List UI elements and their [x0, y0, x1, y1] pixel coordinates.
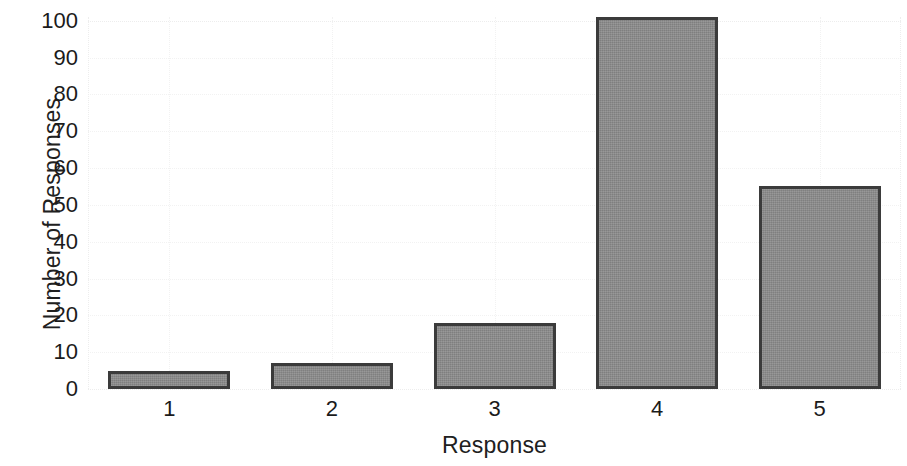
x-tick-label: 2 — [302, 396, 362, 422]
bar — [108, 371, 230, 389]
x-axis-tick-labels: 12345 — [88, 396, 901, 426]
x-tick-label: 5 — [790, 396, 850, 422]
y-tick-label: 40 — [26, 231, 78, 253]
x-tick-label: 3 — [465, 396, 525, 422]
bar — [271, 363, 393, 389]
y-tick-label: 90 — [26, 47, 78, 69]
gridline-vertical — [900, 17, 901, 389]
x-tick-label: 4 — [627, 396, 687, 422]
y-tick-label: 10 — [26, 341, 78, 363]
x-axis-title: Response — [88, 432, 901, 459]
gridline-vertical — [332, 17, 333, 389]
bar — [759, 186, 881, 389]
y-tick-label: 20 — [26, 304, 78, 326]
gridline-vertical — [169, 17, 170, 389]
plot-area — [88, 17, 901, 389]
x-tick-label: 1 — [139, 396, 199, 422]
bar — [434, 323, 556, 389]
y-tick-label: 0 — [26, 378, 78, 400]
y-tick-label: 50 — [26, 194, 78, 216]
gridline-horizontal — [88, 389, 901, 390]
bar-chart-figure: Number of Responses 01020304050607080901… — [0, 0, 907, 466]
y-tick-label: 30 — [26, 268, 78, 290]
bar — [596, 17, 718, 389]
y-tick-label: 100 — [26, 10, 78, 32]
y-tick-label: 70 — [26, 120, 78, 142]
y-axis-tick-labels: 0102030405060708090100 — [26, 0, 78, 466]
y-tick-label: 60 — [26, 157, 78, 179]
gridline-vertical — [88, 17, 89, 389]
y-tick-label: 80 — [26, 83, 78, 105]
